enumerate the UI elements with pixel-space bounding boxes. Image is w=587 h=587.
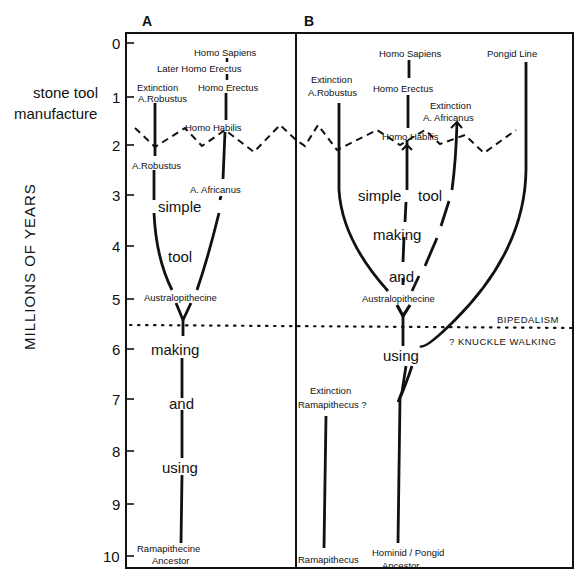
- y-tick-4: 4: [112, 238, 120, 255]
- y-axis: 0 1 2 3 4 5 6 7 8 9 10: [103, 35, 134, 565]
- b-phrase-and: and: [389, 268, 414, 285]
- y-tick-0: 0: [112, 35, 120, 52]
- y-tick-3: 3: [112, 187, 120, 204]
- y-tick-2: 2: [112, 137, 120, 154]
- b-pongid-line-label: Pongid Line: [487, 48, 537, 59]
- b-extinction-ramapithecus-label: Extinction: [310, 385, 351, 396]
- b-ramapithecus-q-label: Ramapithecus ?: [298, 399, 367, 410]
- a-australopithecine-label: Australopithecine: [144, 292, 217, 303]
- b-phrase-tool: tool: [418, 187, 442, 204]
- panel-a-labels: Homo Sapiens Later Homo Erectus Extincti…: [132, 47, 258, 566]
- a-phrase-tool: tool: [168, 248, 192, 265]
- a-phrase-and: and: [169, 395, 194, 412]
- side-annotation-line2: manufacture: [14, 105, 97, 122]
- y-tick-6: 6: [112, 341, 120, 358]
- a-extinct-robustus-label: A.Robustus: [138, 93, 187, 104]
- b-homo-sapiens-label: Homo Sapiens: [379, 48, 442, 59]
- a-phrase-using: using: [162, 459, 198, 476]
- b-hp-ancestor-label-1: Hominid / Pongid: [372, 547, 444, 558]
- b-africanus-label: A. Africanus: [423, 112, 474, 123]
- a-ancestor-label-2: Ancestor: [152, 555, 190, 566]
- y-tick-1: 1: [112, 89, 120, 106]
- y-tick-5: 5: [112, 291, 120, 308]
- y-tick-7: 7: [112, 391, 120, 408]
- b-phrase-simple: simple: [358, 187, 401, 204]
- a-homo-erectus-label: Homo Erectus: [198, 82, 258, 93]
- b-phrase-using: using: [383, 347, 419, 364]
- a-africanus-label: A. Africanus: [190, 184, 241, 195]
- b-phrase-making: making: [373, 226, 421, 243]
- b-ramapithecus-label: Ramapithecus: [298, 554, 359, 565]
- y-tick-9: 9: [112, 496, 120, 513]
- a-phrase-making: making: [151, 341, 199, 358]
- y-tick-10: 10: [103, 548, 120, 565]
- y-tick-8: 8: [112, 443, 120, 460]
- b-hp-ancestor-label-2: Ancestor: [382, 560, 420, 571]
- panel-b-letter: B: [304, 13, 314, 29]
- b-homo-habilis-label: Homo Habilis: [382, 131, 439, 142]
- bipedalism-dotted-line: [130, 325, 573, 328]
- a-extinction-label: Extinction: [137, 82, 178, 93]
- bipedalism-label: BIPEDALISM: [497, 314, 559, 325]
- b-extinction-africanus-label: Extinction: [430, 100, 471, 111]
- a-ancestor-label-1: Ramapithecine: [137, 543, 200, 554]
- y-axis-label: MILLIONS OF YEARS: [21, 183, 38, 350]
- b-robustus-label: A.Robustus: [308, 87, 357, 98]
- a-later-homo-erectus-label: Later Homo Erectus: [157, 63, 242, 74]
- knuckle-walking-label: ? KNUCKLE WALKING: [449, 336, 556, 347]
- b-australopithecine-label: Australopithecine: [362, 293, 435, 304]
- side-annotation-line1: stone tool: [33, 84, 98, 101]
- a-homo-habilis-label: Homo Habilis: [185, 122, 242, 133]
- a-phrase-simple: simple: [158, 198, 201, 215]
- b-extinction-robustus-label: Extinction: [311, 74, 352, 85]
- b-homo-erectus-label: Homo Erectus: [373, 83, 433, 94]
- hominid-evolution-diagram: A B 0 1 2 3 4 5 6 7 8 9 10 stone tool ma…: [0, 0, 587, 587]
- a-homo-sapiens-label: Homo Sapiens: [194, 47, 257, 58]
- panel-b-labels: Homo Sapiens Pongid Line Extinction A.Ro…: [298, 48, 559, 571]
- panel-a-letter: A: [142, 13, 152, 29]
- a-robustus-label: A.Robustus: [132, 160, 181, 171]
